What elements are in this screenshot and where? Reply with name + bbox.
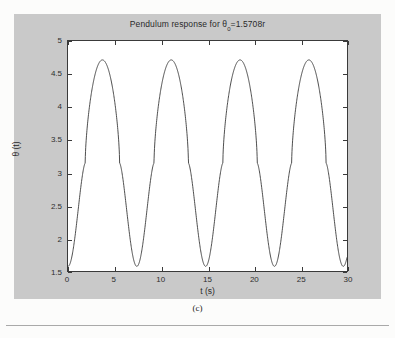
y-tick-label-1.5: 1.5 xyxy=(14,268,62,277)
x-tick-label-25: 25 xyxy=(297,275,306,284)
y-tick-2.5 xyxy=(68,207,72,208)
y-tick-5 xyxy=(343,41,347,42)
y-tick-label-4: 4 xyxy=(14,102,62,111)
y-tick-4 xyxy=(68,107,72,108)
x-tick-20 xyxy=(255,41,256,45)
matlab-figure-panel: Pendulum response for θ0=1.5708r 0510152… xyxy=(14,14,381,299)
x-tick-label-0: 0 xyxy=(65,275,69,284)
theta-subscript: 0 xyxy=(227,26,230,32)
x-tick-10 xyxy=(162,41,163,45)
y-tick-3.5 xyxy=(68,140,72,141)
x-tick-label-30: 30 xyxy=(344,275,353,284)
chart-title-main: Pendulum response for xyxy=(130,19,222,29)
y-tick-1.5 xyxy=(343,272,347,273)
figure-caption: (c) xyxy=(0,303,395,313)
x-tick-5 xyxy=(115,267,116,271)
x-tick-25 xyxy=(302,267,303,271)
x-tick-30 xyxy=(348,41,349,45)
y-tick-4.5 xyxy=(343,74,347,75)
y-tick-label-2: 2 xyxy=(14,234,62,243)
y-tick-5 xyxy=(68,41,72,42)
y-tick-2 xyxy=(68,240,72,241)
scanned-page: Pendulum response for θ0=1.5708r 0510152… xyxy=(0,0,395,338)
x-tick-label-15: 15 xyxy=(203,275,212,284)
chart-title: Pendulum response for θ0=1.5708r xyxy=(14,19,381,31)
y-tick-3 xyxy=(343,174,347,175)
y-tick-label-3: 3 xyxy=(14,168,62,177)
x-tick-15 xyxy=(209,267,210,271)
x-tick-30 xyxy=(348,267,349,271)
x-tick-25 xyxy=(302,41,303,45)
y-tick-3.5 xyxy=(343,140,347,141)
y-tick-2.5 xyxy=(343,207,347,208)
y-tick-4 xyxy=(343,107,347,108)
y-tick-label-4.5: 4.5 xyxy=(14,69,62,78)
y-tick-label-5: 5 xyxy=(14,36,62,45)
x-tick-label-20: 20 xyxy=(250,275,259,284)
y-tick-1.5 xyxy=(68,272,72,273)
x-tick-label-5: 5 xyxy=(112,275,116,284)
plot-axes xyxy=(67,40,348,272)
y-tick-3 xyxy=(68,174,72,175)
y-tick-4.5 xyxy=(68,74,72,75)
x-tick-20 xyxy=(255,267,256,271)
y-tick-2 xyxy=(343,240,347,241)
chart-title-tail: =1.5708r xyxy=(231,19,266,29)
theta-series-path xyxy=(68,60,347,266)
x-axis-label: t (s) xyxy=(67,286,348,296)
y-tick-label-3.5: 3.5 xyxy=(14,135,62,144)
y-axis-label: θ (t) xyxy=(11,141,21,156)
x-tick-10 xyxy=(162,267,163,271)
y-tick-label-2.5: 2.5 xyxy=(14,201,62,210)
x-tick-0 xyxy=(68,267,69,271)
x-tick-5 xyxy=(115,41,116,45)
pendulum-response-curve xyxy=(68,41,347,271)
x-tick-15 xyxy=(209,41,210,45)
page-divider-rule xyxy=(6,325,389,326)
x-tick-label-10: 10 xyxy=(156,275,165,284)
